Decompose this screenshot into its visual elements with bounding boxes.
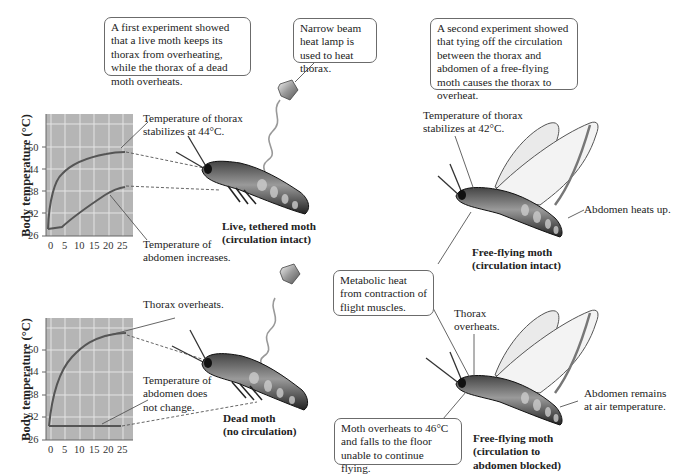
caption-live-tethered: Live, tethered moth (circulation intact): [222, 220, 316, 247]
moth-live-tethered-illustration: [176, 136, 309, 214]
label-line: abdomen does: [143, 387, 211, 400]
moth-free-flying-blocked-illustration: [426, 310, 598, 425]
label-line: not change.: [143, 401, 211, 414]
label-abdomen-heats-up: Abdomen heats up.: [584, 203, 671, 216]
label-thorax-44: Temperature of thorax stabilizes at 44°C…: [143, 112, 243, 139]
label-thorax-overheats: Thorax overheats.: [143, 298, 224, 311]
label-line: at air temperature.: [584, 400, 666, 413]
heat-lamp-icon: [257, 62, 315, 182]
label-line: stabilizes at 42°C.: [423, 122, 523, 135]
label-thorax-42: Temperature of thorax stabilizes at 42°C…: [423, 109, 523, 136]
label-line: abdomen increases.: [143, 251, 231, 264]
caption-free-flying-intact: Free-flying moth (circulation intact): [472, 246, 561, 273]
label-line: Abdomen heats up.: [584, 203, 671, 216]
caption-free-flying-blocked: Free-flying moth (circulation to abdomen…: [473, 432, 561, 472]
callout-metabolic-heat: Metabolic heat from contraction of fligh…: [333, 270, 434, 316]
label-line: Abdomen remains: [584, 387, 666, 400]
caption-line: Free-flying moth: [473, 432, 561, 445]
callout-moth-overheats: Moth overheats to 46°C and falls to the …: [334, 418, 462, 465]
caption-line: Dead moth: [223, 412, 296, 425]
label-line: Thorax overheats.: [143, 298, 224, 311]
label-thorax-overheats-2: Thorax overheats.: [454, 307, 500, 334]
label-abdomen-remains: Abdomen remains at air temperature.: [584, 387, 666, 414]
label-line: stabilizes at 44°C.: [143, 125, 243, 138]
label-line: overheats.: [454, 320, 500, 333]
moth-free-flying-intact-illustration: [438, 122, 598, 237]
label-line: Thorax: [454, 307, 500, 320]
caption-dead-moth: Dead moth (no circulation): [223, 412, 296, 439]
caption-line: (no circulation): [223, 425, 296, 438]
caption-line: abdomen blocked): [473, 459, 561, 472]
caption-line: Free-flying moth: [472, 246, 561, 259]
heat-lamp-icon: [255, 264, 300, 376]
callout-first-experiment: A first experiment showed that a live mo…: [104, 17, 251, 76]
callout-second-experiment: A second experiment showed that tying of…: [430, 18, 578, 90]
label-abdomen-increases: Temperature of abdomen increases.: [143, 238, 231, 265]
label-line: Temperature of thorax: [143, 112, 243, 125]
callout-heat-lamp: Narrow beam heat lamp is used to heat th…: [293, 18, 377, 63]
label-abdomen-no-change: Temperature of abdomen does not change.: [143, 374, 211, 414]
caption-line: (circulation intact): [472, 259, 561, 272]
caption-line: (circulation to: [473, 445, 561, 458]
label-line: Temperature of: [143, 374, 211, 387]
label-line: Temperature of thorax: [423, 109, 523, 122]
caption-line: (circulation intact): [222, 233, 316, 246]
caption-line: Live, tethered moth: [222, 220, 316, 233]
label-line: Temperature of: [143, 238, 231, 251]
